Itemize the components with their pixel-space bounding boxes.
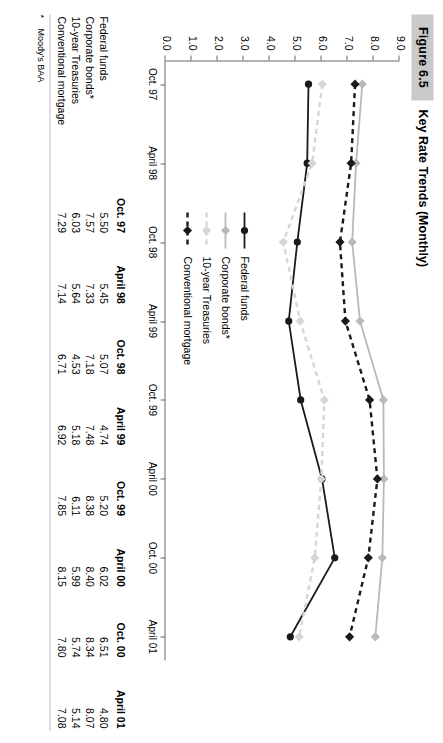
table-cell: 8.34 [82, 588, 96, 659]
data-point [355, 316, 364, 325]
table-cell: 8.38 [82, 447, 96, 518]
table-cell: 5.45 [96, 235, 110, 306]
data-point [295, 316, 304, 325]
table-cell: 5.07 [96, 305, 110, 376]
data-point [344, 632, 353, 641]
data-point [363, 553, 372, 562]
legend-swatch [216, 210, 234, 250]
data-point [365, 395, 374, 404]
table-cell: 6.92 [54, 376, 68, 447]
table-cell: 7.33 [82, 235, 96, 306]
line-chart: 0.01.02.03.04.05.06.07.08.09.0 Oct. 97Ap… [135, 14, 403, 730]
data-point [370, 632, 379, 641]
data-point [347, 237, 356, 246]
table-cell: 7.14 [54, 235, 68, 306]
data-point [293, 238, 300, 245]
table-cell: 8.07 [82, 659, 96, 730]
table-cell: 5.14 [68, 659, 82, 730]
data-point [297, 396, 304, 403]
data-table: Oct. 97April 98Oct. 98April 99Oct. 99Apr… [54, 14, 127, 730]
data-point [340, 316, 349, 325]
data-point [278, 237, 287, 246]
footnote-text: Moody's BAA [35, 28, 45, 82]
data-point [317, 79, 326, 88]
table-column-header: April 01 [110, 659, 127, 730]
table-cell: 5.20 [96, 447, 110, 518]
legend-swatch [178, 210, 196, 250]
data-point [240, 226, 247, 233]
table-column-header: April 99 [110, 376, 127, 447]
table-row: 10-year Treasuries6.035.644.535.186.115.… [68, 14, 82, 730]
data-point [350, 79, 359, 88]
legend-label: 10-year Treasuries [197, 256, 215, 344]
page-title: Key Rate Trends (Monthly) [411, 109, 433, 267]
table-row: Federal funds5.505.455.074.745.206.026.5… [96, 14, 110, 730]
data-point [372, 474, 381, 483]
table-cell: 4.80 [96, 659, 110, 730]
table-cell: 4.74 [96, 376, 110, 447]
table-cell: 6.71 [54, 305, 68, 376]
table-column-header: April 00 [110, 518, 127, 589]
table-body: Federal funds5.505.455.074.745.206.026.5… [54, 14, 110, 730]
data-point [377, 553, 386, 562]
table-column-header: Oct. 00 [110, 588, 127, 659]
footnote: *Moody's BAA [35, 14, 45, 82]
data-point [346, 158, 355, 167]
legend-label: Federal funds [235, 256, 253, 320]
table-cell: 8.40 [82, 518, 96, 589]
data-point [335, 237, 344, 246]
data-point [182, 225, 191, 234]
series-10-year-treasuries [278, 79, 328, 641]
table-column-header: Oct. 97 [110, 164, 127, 235]
footnote-marker: * [35, 14, 45, 28]
data-point [310, 553, 319, 562]
legend-label: Conventional mortgage [178, 256, 196, 365]
figure-title-bar: Figure 6.5 Key Rate Trends (Monthly) [411, 14, 433, 730]
table-header-row: Oct. 97April 98Oct. 98April 99Oct. 99Apr… [110, 14, 127, 730]
table-cell: 7.80 [54, 588, 68, 659]
data-point [378, 395, 387, 404]
table-cell: 5.50 [96, 164, 110, 235]
data-point [319, 395, 328, 404]
table-bottom-rule [49, 14, 50, 730]
table-cell: 4.53 [68, 305, 82, 376]
table-column-header: April 98 [110, 235, 127, 306]
series-line [283, 84, 324, 637]
table-cell: 6.02 [96, 518, 110, 589]
table-cell: 7.08 [54, 659, 68, 730]
data-point [331, 554, 338, 561]
table-cell: 6.51 [96, 588, 110, 659]
legend-label: Corporate bonds* [216, 256, 234, 338]
table-cell: 5.99 [68, 518, 82, 589]
table-column-header: Oct. 99 [110, 447, 127, 518]
table-cell: 5.18 [68, 376, 82, 447]
table-cell: 7.57 [82, 164, 96, 235]
table-cell: 8.15 [54, 518, 68, 589]
table-cell: 7.29 [54, 164, 68, 235]
series-canvas [135, 14, 403, 730]
table-cell: 7.48 [82, 376, 96, 447]
table-cell: 6.03 [68, 164, 82, 235]
table-row-label: Conventional mortgage [54, 14, 68, 164]
legend-swatch [197, 210, 215, 250]
table-cell: 6.11 [68, 447, 82, 518]
table-row-label: Corporate bonds* [82, 14, 96, 164]
table-cell: 7.85 [54, 447, 68, 518]
data-point [294, 632, 303, 641]
data-point [285, 317, 292, 324]
legend-swatch [235, 210, 253, 250]
data-point [304, 80, 311, 87]
figure-number: Figure 6.5 [411, 14, 433, 100]
table-row-label: Federal funds [96, 14, 110, 164]
table-cell: 7.18 [82, 305, 96, 376]
data-point [220, 225, 229, 234]
data-point [201, 225, 210, 234]
table-corner-cell [110, 14, 127, 164]
table-column-header: Oct. 98 [110, 305, 127, 376]
table-cell: 5.74 [68, 588, 82, 659]
table-row: Corporate bonds*7.577.337.187.488.388.40… [82, 14, 96, 730]
figure-page: Figure 6.5 Key Rate Trends (Monthly) 0.0… [0, 0, 443, 743]
table-row-label: 10-year Treasuries [68, 14, 82, 164]
table-cell: 5.64 [68, 235, 82, 306]
table-row: Conventional mortgage7.297.146.716.927.8… [54, 14, 68, 730]
